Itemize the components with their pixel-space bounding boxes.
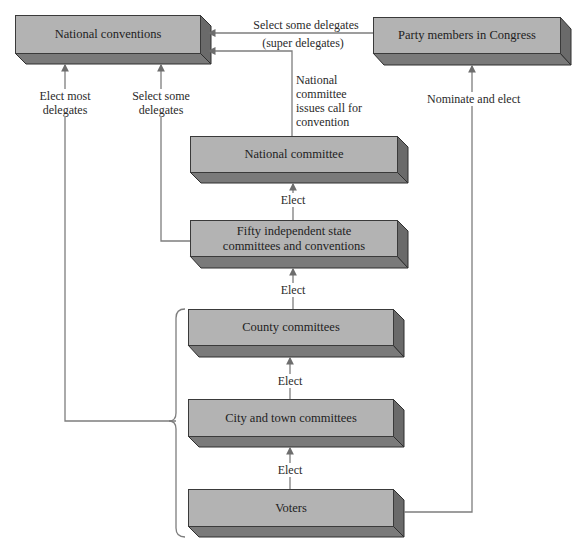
label-super-delegates: (super delegates): [248, 36, 358, 50]
label-elect-2: Elect: [277, 283, 309, 297]
nominate-and-elect-line: [404, 66, 472, 512]
select-some-line1: Select some: [116, 89, 206, 103]
elect-most-delegates-line: [65, 65, 176, 421]
label-select-some-delegates: Select some delegates: [240, 18, 372, 32]
box-party-members-congress-label: Party members in Congress: [373, 17, 561, 54]
label-elect-3: Elect: [274, 374, 306, 388]
call-line1: National: [296, 73, 386, 87]
label-elect-most-delegates: Elect most delegates: [20, 89, 110, 117]
elect-most-line2: delegates: [20, 103, 110, 117]
label-nominate-and-elect: Nominate and elect: [427, 92, 519, 106]
select-some-line2: delegates: [116, 103, 206, 117]
label-national-committee-issues-call: National committee issues call for conve…: [296, 73, 386, 129]
box-county-committees-label: County committees: [188, 309, 394, 346]
state-committees-line1: Fifty independent state: [237, 224, 352, 239]
call-line4: convention: [296, 115, 386, 129]
box-voters-label: Voters: [188, 489, 394, 527]
box-city-town-committees-label: City and town committees: [188, 399, 394, 437]
box-national-conventions-label: National conventions: [15, 15, 201, 54]
box-state-committees-label: Fifty independent state committees and c…: [190, 220, 398, 257]
call-line2: committee: [296, 87, 386, 101]
issues-call-line: [209, 51, 292, 136]
label-select-some-delegates-state: Select some delegates: [116, 89, 206, 117]
box-national-committee-label: National committee: [190, 136, 398, 173]
state-committees-line2: committees and conventions: [223, 239, 365, 254]
elect-most-line1: Elect most: [20, 89, 110, 103]
party-organization-diagram: National conventions Party members in Co…: [0, 0, 584, 550]
call-line3: issues call for: [296, 101, 386, 115]
local-level-bracket: [169, 309, 185, 537]
label-elect-4: Elect: [274, 463, 306, 477]
label-elect-1: Elect: [277, 193, 309, 207]
